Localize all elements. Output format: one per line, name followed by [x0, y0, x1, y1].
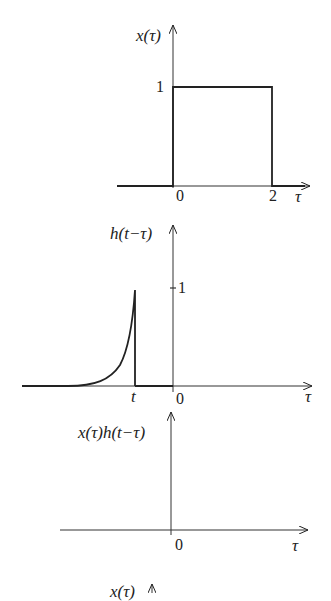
panel1-y-one: 1	[156, 79, 164, 95]
panel-h-t-minus-tau	[22, 225, 312, 392]
panel4-ylabel: x(τ)	[110, 583, 135, 600]
panel3-x-zero: 0	[175, 537, 183, 553]
panel3-ylabel: x(τ)h(t−τ)	[78, 424, 145, 441]
panel-x-tau	[117, 25, 310, 188]
panel2-x-zero: 0	[176, 391, 184, 407]
panel2-xlabel: τ	[305, 388, 311, 405]
panel3-xlabel: τ	[292, 537, 298, 554]
panel1-x-two: 2	[269, 188, 277, 204]
panel1-xlabel: τ	[295, 188, 301, 205]
panel2-ylabel: h(t−τ)	[110, 225, 152, 242]
panel2-y-one: 1	[178, 280, 186, 296]
exponential-curve	[22, 290, 135, 386]
panel1-x-zero: 0	[176, 188, 184, 204]
panel1-ylabel: x(τ)	[136, 27, 161, 44]
panel2-x-t: t	[131, 388, 136, 405]
rect-pulse	[117, 87, 305, 186]
